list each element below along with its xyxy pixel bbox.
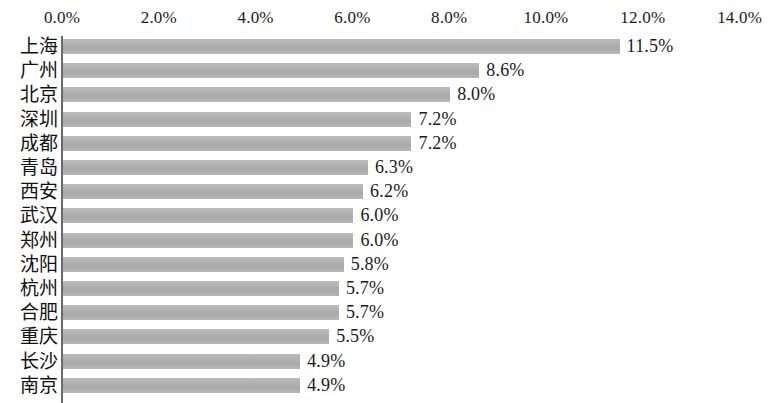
category-label: 南京 — [0, 375, 58, 397]
bar — [63, 378, 300, 393]
bar-value-label: 8.0% — [457, 83, 495, 105]
bar-row: 沈阳5.8% — [0, 254, 779, 278]
horizontal-bar-chart: 0.0%2.0%4.0%6.0%8.0%10.0%12.0%14.0% 上海11… — [0, 0, 779, 403]
x-tick-label: 10.0% — [524, 8, 569, 28]
bar-value-label: 7.2% — [418, 132, 456, 154]
category-label: 杭州 — [0, 278, 58, 300]
plot-area: 上海11.5%广州8.6%北京8.0%深圳7.2%成都7.2%青岛6.3%西安6… — [0, 30, 779, 403]
bar-row: 重庆5.5% — [0, 326, 779, 350]
bar-value-label: 6.2% — [370, 180, 408, 202]
bar-value-label: 5.8% — [351, 253, 389, 275]
bar-value-label: 5.5% — [336, 325, 374, 347]
bar-value-label: 6.3% — [375, 156, 413, 178]
bar-row: 成都7.2% — [0, 133, 779, 157]
bar-value-label: 11.5% — [627, 35, 674, 57]
category-label: 重庆 — [0, 326, 58, 348]
bar-value-label: 7.2% — [418, 108, 456, 130]
bar — [63, 160, 368, 175]
bar-value-label: 4.9% — [307, 374, 345, 396]
bar-row: 青岛6.3% — [0, 157, 779, 181]
x-tick-label: 6.0% — [334, 8, 370, 28]
bar-row: 杭州5.7% — [0, 278, 779, 302]
bar — [63, 87, 450, 102]
category-label: 武汉 — [0, 205, 58, 227]
bar — [63, 281, 339, 296]
bar-row: 郑州6.0% — [0, 230, 779, 254]
category-label: 北京 — [0, 84, 58, 106]
bar — [63, 208, 353, 223]
bar — [63, 233, 353, 248]
bar-row: 广州8.6% — [0, 60, 779, 84]
bar-value-label: 5.7% — [346, 277, 384, 299]
x-tick-label: 4.0% — [237, 8, 273, 28]
bar-value-label: 6.0% — [360, 229, 398, 251]
category-label: 青岛 — [0, 157, 58, 179]
bar-row: 合肥5.7% — [0, 302, 779, 326]
bar-row: 长沙4.9% — [0, 351, 779, 375]
bar-row: 南京4.9% — [0, 375, 779, 399]
category-label: 上海 — [0, 36, 58, 58]
bar — [63, 354, 300, 369]
x-axis-tick-labels: 0.0%2.0%4.0%6.0%8.0%10.0%12.0%14.0% — [0, 0, 779, 30]
category-label: 合肥 — [0, 302, 58, 324]
bar — [63, 39, 620, 54]
bar-value-label: 8.6% — [486, 59, 524, 81]
x-tick-label: 14.0% — [717, 8, 762, 28]
x-tick-label: 8.0% — [431, 8, 467, 28]
bar — [63, 63, 479, 78]
category-label: 郑州 — [0, 230, 58, 252]
bar-value-label: 6.0% — [360, 204, 398, 226]
category-label: 西安 — [0, 181, 58, 203]
bar — [63, 136, 411, 151]
bar-row: 北京8.0% — [0, 84, 779, 108]
category-label: 广州 — [0, 60, 58, 82]
bar-row: 武汉6.0% — [0, 205, 779, 229]
bar — [63, 184, 363, 199]
x-tick-label: 0.0% — [44, 8, 80, 28]
bar — [63, 257, 344, 272]
x-tick-label: 2.0% — [141, 8, 177, 28]
category-label: 长沙 — [0, 351, 58, 373]
category-label: 深圳 — [0, 109, 58, 131]
category-label: 成都 — [0, 133, 58, 155]
bar — [63, 305, 339, 320]
bar-row: 上海11.5% — [0, 36, 779, 60]
bar — [63, 329, 329, 344]
bar-row: 西安6.2% — [0, 181, 779, 205]
bar-value-label: 4.9% — [307, 350, 345, 372]
category-label: 沈阳 — [0, 254, 58, 276]
bar — [63, 112, 411, 127]
bar-value-label: 5.7% — [346, 301, 384, 323]
bar-row: 深圳7.2% — [0, 109, 779, 133]
x-tick-label: 12.0% — [620, 8, 665, 28]
